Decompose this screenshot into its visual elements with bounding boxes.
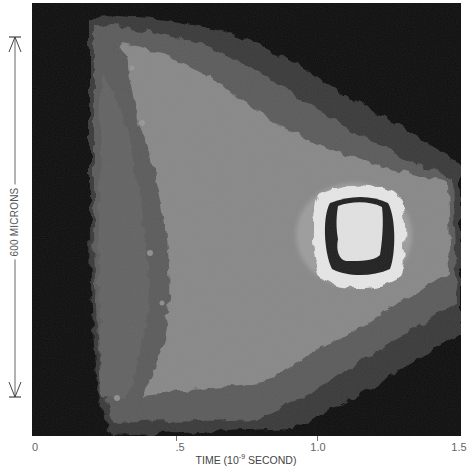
x-tick-label-1.0: 1.0: [310, 441, 325, 453]
x-tick-label-0: 0: [32, 441, 38, 453]
emission-image: [32, 3, 461, 436]
x-axis-title-suffix: SECOND): [245, 454, 296, 466]
scale-bar-label: 600 MICRONS: [9, 185, 20, 260]
x-tick-label-0.5: .5: [175, 441, 184, 453]
x-tick-label-1.5: 1.5: [451, 441, 466, 453]
x-axis-title-prefix: TIME (10: [196, 454, 239, 466]
x-axis-title: TIME (10-9 SECOND): [196, 453, 297, 466]
emission-image-svg: [32, 3, 461, 436]
